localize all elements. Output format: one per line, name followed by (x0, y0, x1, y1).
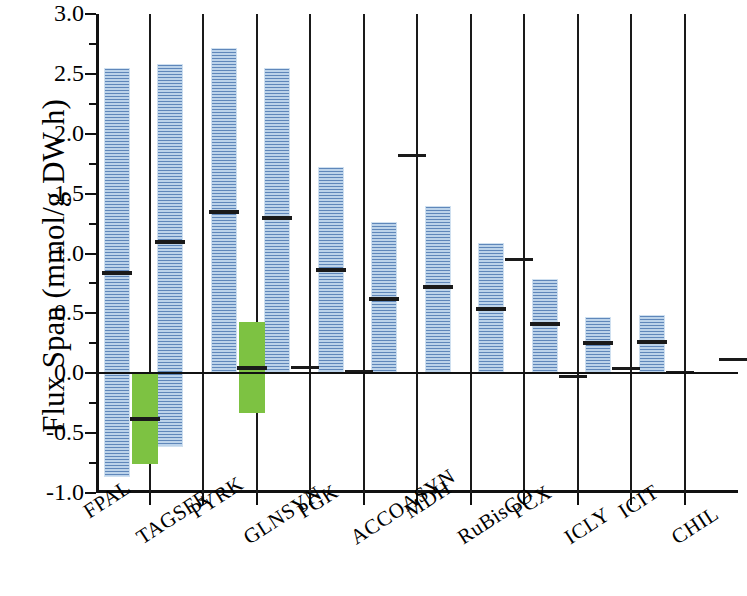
x-tick-label-chil: CHIL (667, 501, 723, 550)
x-tick-label-pyrk: PYRK (186, 471, 248, 524)
x-tick-label-fpal: FPAL (79, 475, 136, 524)
x-tick-label-icit: ICIT (614, 480, 664, 524)
x-tick-label-icly: ICLY (560, 502, 615, 550)
